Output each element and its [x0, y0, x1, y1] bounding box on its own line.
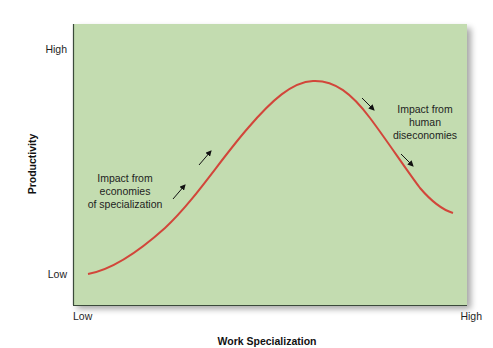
annotation-line: diseconomies [393, 129, 457, 141]
y-axis-title: Productivity [26, 134, 38, 195]
chart-svg: High Low Low High Work Specialization Pr… [0, 0, 493, 348]
x-tick-low: Low [73, 310, 93, 322]
annotation-line: Impact from [397, 103, 453, 115]
y-tick-high: High [45, 43, 67, 55]
annotation-line: economies [100, 185, 151, 197]
y-tick-low: Low [48, 268, 68, 280]
x-axis-title: Work Specialization [218, 335, 317, 347]
annotation-line: human [409, 116, 441, 128]
chart: High Low Low High Work Specialization Pr… [0, 0, 493, 348]
annotation-line: Impact from [97, 172, 153, 184]
x-tick-high: High [460, 310, 482, 322]
plot-area [73, 24, 467, 305]
annotation-line: of specialization [88, 198, 163, 210]
